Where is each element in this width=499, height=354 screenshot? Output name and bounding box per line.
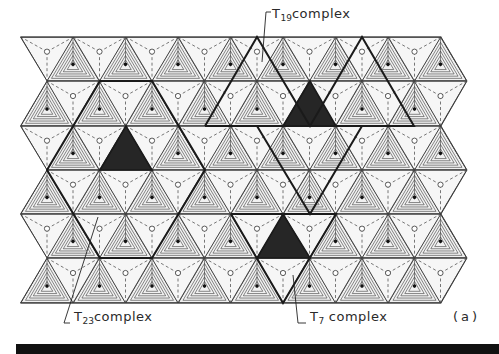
panel-label: (a) [453, 309, 480, 324]
t7-complex-label: T7 complex [310, 309, 387, 326]
bottom-rule [16, 344, 499, 354]
t23-complex-label: T23complex [74, 309, 153, 326]
tessellation-diagram [0, 0, 499, 354]
triangle-tiles [0, 0, 499, 354]
t19-complex-label: T19complex [272, 6, 351, 23]
